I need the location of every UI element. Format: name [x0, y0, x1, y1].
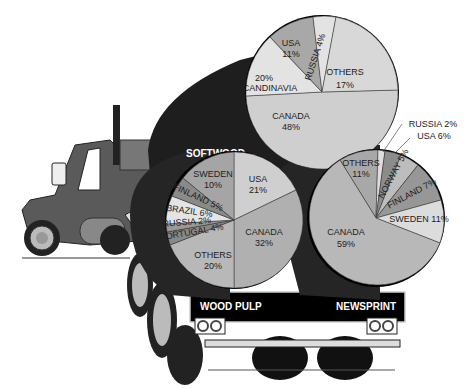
tail-light: [370, 321, 380, 331]
rear-bumper: [205, 340, 400, 347]
svg-text:SCANDINAVIA: SCANDINAVIA: [237, 83, 297, 93]
svg-text:CANADA: CANADA: [272, 111, 310, 121]
lumber-truck-infographic: WOOD PULP NEWSPRINT SOFTWOOD USA 11% RUS…: [0, 0, 472, 389]
svg-text:11%: 11%: [352, 169, 369, 179]
svg-text:20%: 20%: [204, 261, 222, 271]
svg-text:SWEDEN: SWEDEN: [193, 169, 233, 179]
svg-text:59%: 59%: [337, 239, 355, 249]
svg-text:CANADA: CANADA: [245, 227, 283, 237]
side-mirror: [52, 163, 66, 185]
svg-text:CANADA: CANADA: [327, 227, 365, 237]
svg-text:11%: 11%: [282, 49, 299, 59]
svg-text:20%: 20%: [255, 73, 273, 83]
wood-pulp-label: WOOD PULP: [200, 301, 262, 312]
svg-text:USA: USA: [249, 174, 268, 184]
newsprint-usa-callout: USA 6%: [417, 131, 451, 141]
svg-text:OTHERS: OTHERS: [194, 250, 232, 260]
tail-light: [198, 321, 208, 331]
svg-text:SWEDEN 11%: SWEDEN 11%: [389, 214, 448, 224]
newsprint-russia-callout: RUSSIA 2%: [409, 119, 458, 129]
svg-text:48%: 48%: [282, 122, 300, 132]
exhaust-stack: [113, 105, 120, 165]
svg-text:10%: 10%: [204, 180, 222, 190]
svg-text:OTHERS: OTHERS: [342, 158, 380, 168]
svg-text:USA: USA: [282, 38, 301, 48]
svg-text:OTHERS: OTHERS: [326, 67, 364, 77]
tail-light: [383, 321, 393, 331]
svg-text:17%: 17%: [336, 80, 354, 90]
svg-text:21%: 21%: [249, 185, 267, 195]
svg-text:32%: 32%: [255, 238, 273, 248]
tail-light: [211, 321, 221, 331]
newsprint-label: NEWSPRINT: [336, 301, 396, 312]
